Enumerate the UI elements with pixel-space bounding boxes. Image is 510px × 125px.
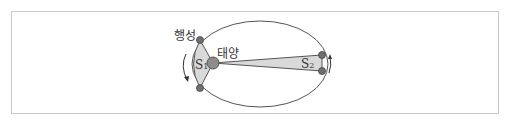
area-s1-symbol: S bbox=[195, 58, 203, 72]
planet-icon bbox=[197, 85, 204, 92]
area-s1-label: S1 bbox=[195, 59, 208, 71]
planet-label: 행성 bbox=[174, 30, 196, 42]
area-s2-label: S2 bbox=[301, 58, 314, 70]
area-s2-subscript: 2 bbox=[309, 61, 314, 70]
arrow-head-icon bbox=[328, 54, 332, 59]
planet-icon bbox=[319, 52, 326, 59]
arrow-head-icon bbox=[184, 76, 189, 82]
planet-icon bbox=[197, 37, 204, 44]
sun-label: 태양 bbox=[217, 48, 239, 60]
direction-arrow-icon bbox=[183, 54, 187, 80]
area-s2-symbol: S bbox=[301, 57, 309, 71]
planet-icon bbox=[319, 68, 326, 75]
direction-arrow-icon bbox=[329, 57, 331, 73]
area-s1-subscript: 1 bbox=[203, 62, 208, 71]
orbit-diagram bbox=[0, 0, 510, 125]
